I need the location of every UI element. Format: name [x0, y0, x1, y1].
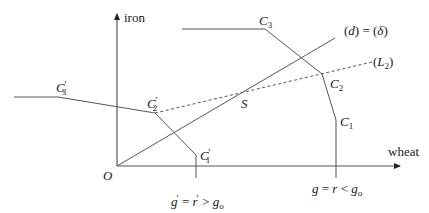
- point-C2-prime-label: C′2: [147, 96, 157, 113]
- C3-sub: 3: [268, 20, 273, 30]
- C3p-sub: 3: [62, 87, 67, 97]
- C2-sub: 2: [339, 83, 344, 93]
- L2-sub: 2: [385, 61, 390, 71]
- y-axis-label: iron: [124, 11, 145, 24]
- point-S-label: S: [241, 97, 248, 110]
- L2-label: (L2): [373, 55, 393, 71]
- origin-label: O: [103, 169, 112, 182]
- point-C1-prime-label: C′1: [200, 148, 210, 165]
- point-C2-label: C2: [330, 77, 343, 93]
- C2-base: C: [330, 76, 339, 91]
- lc-eq: =: [179, 194, 193, 209]
- rc-lt: <: [337, 181, 351, 196]
- x-axis-label: wheat: [388, 145, 419, 158]
- rc-eq: =: [319, 181, 333, 196]
- C1p-sub: 1: [206, 155, 211, 165]
- d-equals: ) = (: [355, 23, 378, 38]
- point-C3-label: C3: [259, 14, 272, 30]
- L2-base: L: [377, 54, 384, 69]
- point-C1-label: C1: [340, 115, 353, 131]
- C1-sub: 1: [349, 121, 354, 131]
- left-condition-label: g′ = r′ > go: [171, 194, 224, 211]
- diagram-canvas: iron wheat O (d) = (δ) (L2) S C3 C2 C1 C…: [0, 0, 429, 213]
- d-paren-close: ): [383, 23, 387, 38]
- C3-base: C: [259, 13, 268, 28]
- rc-sub: o: [358, 188, 363, 198]
- lc-sub: o: [219, 201, 224, 211]
- right-condition-label: g = r < go: [312, 182, 362, 198]
- C1-base: C: [340, 114, 349, 129]
- lc-gt: >: [199, 194, 213, 209]
- C2p-sub: 2: [153, 103, 158, 113]
- point-C3-prime-label: C′3: [56, 80, 66, 97]
- d-delta-label: (d) = (δ): [344, 24, 388, 37]
